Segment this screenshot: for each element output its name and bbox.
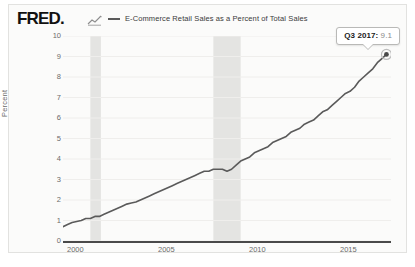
- chart-legend[interactable]: E-Commerce Retail Sales as a Percent of …: [108, 14, 308, 23]
- y-tick-7: 7: [57, 94, 61, 102]
- y-tick-9: 9: [57, 53, 61, 61]
- legend-series-label: E-Commerce Retail Sales as a Percent of …: [125, 14, 308, 23]
- x-tick-2010: 2010: [249, 245, 266, 254]
- x-tick-2015: 2015: [340, 245, 357, 254]
- highlight-point-marker: [381, 49, 391, 59]
- y-axis-ticks: 10 9 8 7 6 5 4 3 2 1 0: [39, 36, 61, 241]
- y-axis-title: Percent: [0, 90, 9, 117]
- y-tick-1: 1: [57, 217, 61, 225]
- x-tick-2000: 2000: [67, 245, 84, 254]
- fred-logo: FRED.: [17, 10, 64, 27]
- value-tooltip: Q3 2017: 9.1: [336, 27, 400, 45]
- tooltip-value-label: 9.1: [381, 31, 392, 40]
- x-axis-ticks: 2000 2005 2010 2015: [63, 245, 403, 257]
- y-tick-2: 2: [57, 196, 61, 204]
- plot-area[interactable]: [63, 36, 391, 241]
- x-tick-2005: 2005: [158, 245, 175, 254]
- chart-squiggle-icon: [87, 15, 103, 26]
- y-tick-3: 3: [57, 176, 61, 184]
- y-tick-4: 4: [57, 155, 61, 163]
- fred-logo-text: FRED: [17, 9, 60, 28]
- y-tick-6: 6: [57, 114, 61, 122]
- legend-line-swatch: [108, 18, 120, 20]
- fred-chart-panel: FRED. E-Commerce Retail Sales as a Perce…: [8, 4, 407, 253]
- y-tick-8: 8: [57, 73, 61, 81]
- y-tick-5: 5: [57, 135, 61, 143]
- y-tick-10: 10: [53, 32, 61, 40]
- tooltip-pointer: [363, 44, 373, 49]
- highlight-point-dot[interactable]: [384, 52, 389, 57]
- tooltip-date-label: Q3 2017:: [344, 31, 378, 40]
- y-tick-0: 0: [57, 237, 61, 245]
- fred-logo-dot: .: [60, 9, 64, 28]
- x-axis-line: [63, 241, 391, 243]
